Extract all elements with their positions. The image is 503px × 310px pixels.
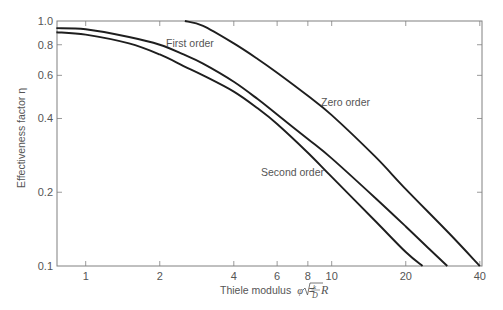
curve-zero-order <box>185 21 480 266</box>
y-tick-label: 0.1 <box>38 260 53 272</box>
y-tick-label: 0.4 <box>38 112 53 124</box>
x-tick-label: 8 <box>305 270 311 282</box>
x-tick-label: 10 <box>326 270 338 282</box>
y-tick-label: 0.6 <box>38 69 53 81</box>
x-axis-title: Thiele modulus φ = R k D <box>220 283 329 301</box>
y-tick-label: 0.2 <box>38 186 53 198</box>
x-tick-label: 2 <box>157 270 163 282</box>
plot-border <box>57 21 482 266</box>
frac-denominator: D <box>311 291 318 300</box>
y-axis-title: Effectiveness factor η <box>15 88 27 188</box>
curves <box>56 21 479 266</box>
effectiveness-factor-chart: 124681020400.10.20.40.60.81.0 First orde… <box>0 0 503 310</box>
x-tick-label: 20 <box>400 270 412 282</box>
label-zero-order: Zero order <box>321 96 371 108</box>
curve-first-order <box>56 28 447 266</box>
axis-ticks: 124681020400.10.20.40.60.81.0 <box>38 15 486 282</box>
y-tick-label: 0.8 <box>38 39 53 51</box>
x-tick-label: 40 <box>474 270 486 282</box>
x-tick-label: 4 <box>231 270 237 282</box>
y-tick-label: 1.0 <box>38 15 53 27</box>
label-first-order: First order <box>166 37 214 49</box>
plot-frame <box>57 21 482 266</box>
x-tick-label: 1 <box>83 270 89 282</box>
x-tick-label: 6 <box>274 270 280 282</box>
label-second-order: Second order <box>261 166 325 178</box>
